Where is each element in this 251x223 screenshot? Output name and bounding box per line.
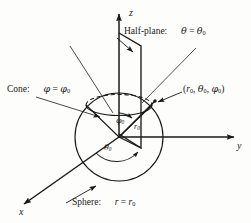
phi-angle-label: φ0 xyxy=(116,117,124,125)
cone-caption: Cone: φ = φ0 xyxy=(7,84,70,95)
point-marker xyxy=(153,99,156,102)
point-close-paren: ) xyxy=(221,84,224,94)
theta-angle-sub: 0 xyxy=(109,146,112,152)
sphere-caption: Sphere: r = r0 xyxy=(72,198,135,208)
cone-eq-lhs: φ xyxy=(43,83,50,94)
cone-eq-rhs-sub: 0 xyxy=(67,87,70,94)
half-plane-eq-rhs-sub: 0 xyxy=(203,29,206,36)
point-guide-line xyxy=(142,48,196,103)
sphere-eq-op: = xyxy=(121,197,126,207)
z-axis-label: z xyxy=(129,8,133,18)
half-plane-eq-op: = xyxy=(189,26,194,36)
sphere-caption-text: Sphere: xyxy=(72,197,101,207)
half-plane-caption: Half-plane: θ = θ0 xyxy=(124,26,206,37)
x-axis-label: x xyxy=(19,207,23,217)
cone-caption-text: Cone: xyxy=(7,84,30,94)
radius-sub: 0 xyxy=(137,125,140,131)
spherical-coordinates-figure: z y x Half-plane: θ = θ0 Cone: φ = φ0 Sp… xyxy=(0,0,251,223)
theta-angle-arc xyxy=(96,152,138,162)
half-plane-eq-lhs: θ xyxy=(181,25,187,36)
cone-eq-op: = xyxy=(52,84,57,94)
sphere-eq-rhs-sub: 0 xyxy=(132,200,135,207)
cone-eq-rhs: φ xyxy=(60,83,67,94)
half-plane-lower-edge xyxy=(119,137,141,148)
theta-angle-label: θ0 xyxy=(104,144,111,152)
cone-generator-left xyxy=(86,105,119,137)
half-plane-caption-text: Half-plane: xyxy=(124,26,167,36)
y-axis-label: y xyxy=(237,141,241,151)
phi-angle-sub: 0 xyxy=(122,119,125,125)
radius-label: r0 xyxy=(134,123,140,131)
point-leader xyxy=(158,92,182,102)
sphere-eq-lhs: r xyxy=(115,197,119,207)
point-coordinate-label: (r0, θ0, φ0) xyxy=(183,84,224,95)
